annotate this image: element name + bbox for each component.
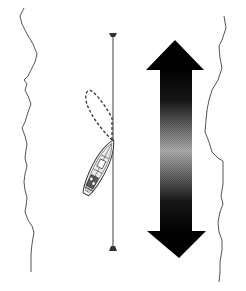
diagram-svg <box>0 0 246 291</box>
left-bank <box>20 8 37 272</box>
diagram-canvas <box>0 0 246 291</box>
current-arrow-icon <box>146 40 206 258</box>
top-marker-icon <box>109 33 117 37</box>
bottom-marker-icon <box>109 246 117 251</box>
right-bank <box>205 16 226 282</box>
swing-path <box>86 90 112 140</box>
boat-icon <box>79 137 120 198</box>
